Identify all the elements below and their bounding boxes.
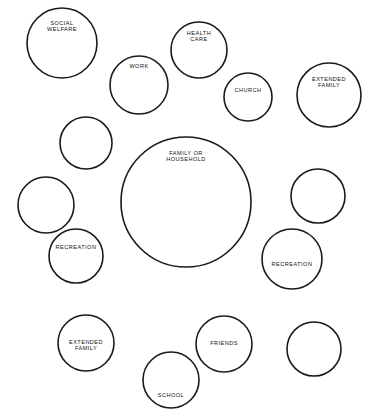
circle-extended-family-top[interactable] (297, 63, 361, 127)
circle-social-welfare[interactable] (27, 8, 97, 78)
circle-work[interactable] (110, 56, 168, 114)
circle-unlabeled-upper-left[interactable] (60, 117, 112, 169)
circle-family-or-household[interactable] (121, 137, 251, 267)
circle-recreation-right[interactable] (262, 229, 322, 289)
circle-extended-family-bottom[interactable] (58, 315, 114, 371)
ecomap-diagram: SOCIALWELFAREWORKHEALTHCARECHURCHEXTENDE… (0, 0, 380, 412)
circle-unlabeled-bottom-right[interactable] (287, 322, 341, 376)
circle-unlabeled-left-middle[interactable] (18, 177, 74, 233)
circle-health-care[interactable] (171, 22, 227, 78)
circle-unlabeled-right-middle[interactable] (291, 169, 345, 223)
circle-recreation-left[interactable] (49, 229, 103, 283)
circle-friends[interactable] (196, 316, 252, 372)
circle-church[interactable] (224, 73, 272, 121)
circle-school[interactable] (143, 352, 199, 408)
diagram-canvas: SOCIALWELFAREWORKHEALTHCARECHURCHEXTENDE… (0, 0, 380, 412)
circles-layer (18, 8, 361, 408)
